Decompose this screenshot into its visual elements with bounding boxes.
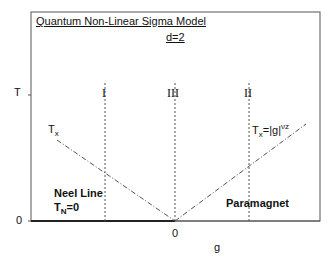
neel-temperature-label: TN=0 — [54, 201, 79, 216]
crossover-left-label: Tx — [48, 123, 59, 138]
diagram-title: Quantum Non-Linear Sigma Model — [36, 15, 206, 27]
y-tick-zero-label: 0 — [16, 214, 22, 226]
y-axis-label: T — [14, 86, 21, 98]
region-label-III: III — [167, 86, 179, 101]
neel-line-label: Neel Line — [54, 187, 103, 199]
paramagnet-label: Paramagnet — [226, 197, 289, 209]
x-axis-label: g — [214, 241, 220, 253]
region-label-I: I — [102, 86, 106, 101]
x-tick-zero-label: 0 — [172, 227, 178, 239]
region-label-II: II — [244, 86, 252, 101]
diagram-subtitle: d=2 — [166, 31, 185, 43]
crossover-right-label: Tx=|g|νz — [252, 122, 289, 139]
